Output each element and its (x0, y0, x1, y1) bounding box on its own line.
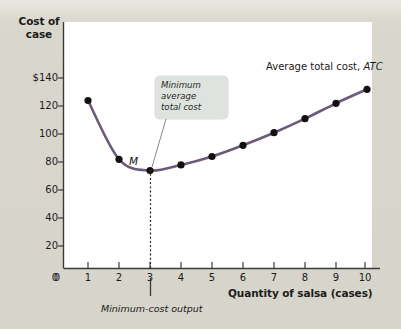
callout-leader-line (152, 119, 166, 167)
figure-panel: Cost of case Quantity of salsa (cases) $… (0, 0, 401, 329)
data-point-x5 (208, 153, 215, 160)
callout-line-2: average (161, 91, 223, 102)
series-label-abbrev: ATC (363, 61, 382, 72)
data-point-x1 (84, 97, 91, 104)
minimum-cost-output-label: Minimum-cost output (101, 303, 203, 314)
callout-line-1: Minimum (161, 80, 223, 91)
data-point-x6 (239, 142, 246, 149)
data-point-x9 (332, 100, 339, 107)
data-point-x4 (177, 161, 184, 168)
callout-minimum-average-total-cost: Minimum average total cost (155, 76, 228, 119)
callout-line-3: total cost (161, 102, 223, 113)
series-label-text: Average total cost, (266, 61, 363, 72)
series-label-atc: Average total cost, ATC (266, 61, 383, 72)
data-point-x8 (301, 115, 308, 122)
data-point-x7 (270, 129, 277, 136)
data-point-x2 (115, 156, 122, 163)
chart-vector-layer (0, 0, 401, 329)
minimum-point-label-m: M (129, 155, 138, 167)
data-point-x10 (363, 86, 370, 93)
